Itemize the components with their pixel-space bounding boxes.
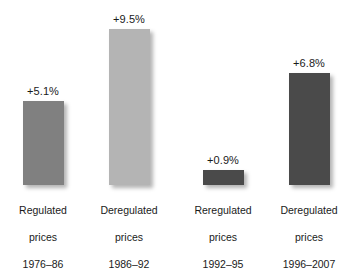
bar-value-label: +5.1% [27, 85, 59, 98]
category-label-line-1: Deregulated [86, 204, 172, 218]
category-label: Regulated prices 1976–86 [0, 190, 86, 272]
bar[interactable] [289, 73, 330, 185]
bar-group: +9.5% Deregulated prices 1986–92 [86, 0, 172, 247]
category-label-line-3: 1996–2007 [266, 258, 352, 272]
category-label-line-3: 1986–92 [86, 258, 172, 272]
category-label-line-2: prices [266, 231, 352, 245]
bar-stack: +6.8% [266, 57, 352, 185]
bar-value-label: +6.8% [293, 57, 325, 70]
category-label-line-3: 1976–86 [0, 258, 86, 272]
bar-group: +6.8% Deregulated prices 1996–2007 [266, 0, 352, 247]
category-label: Deregulated prices 1986–92 [86, 190, 172, 272]
category-label-line-3: 1992–95 [180, 258, 266, 272]
bar-stack: +9.5% [86, 13, 172, 185]
bar-stack: +5.1% [0, 85, 86, 185]
bar-stack: +0.9% [180, 154, 266, 185]
category-label-line-2: prices [180, 231, 266, 245]
category-label: Deregulated prices 1996–2007 [266, 190, 352, 272]
bar[interactable] [109, 29, 150, 185]
bar-value-label: +9.5% [113, 13, 145, 26]
bar-value-label: +0.9% [207, 154, 239, 167]
bar[interactable] [23, 101, 64, 185]
category-label-line-2: prices [0, 231, 86, 245]
bar-group: +5.1% Regulated prices 1976–86 [0, 0, 86, 247]
category-label-line-1: Regulated [0, 204, 86, 218]
category-label-line-1: Reregulated [180, 204, 266, 218]
category-label-line-2: prices [86, 231, 172, 245]
category-label: Reregulated prices 1992–95 [180, 190, 266, 272]
bar[interactable] [203, 170, 244, 185]
bar-group: +0.9% Reregulated prices 1992–95 [180, 0, 266, 247]
category-label-line-1: Deregulated [266, 204, 352, 218]
